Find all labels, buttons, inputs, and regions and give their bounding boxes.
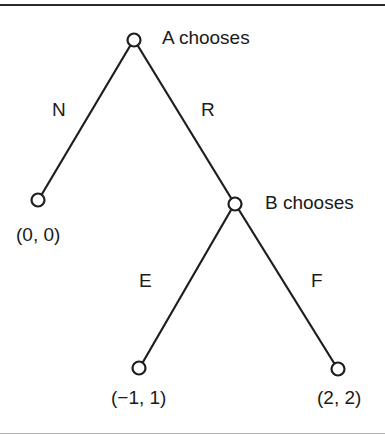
edge-e xyxy=(143,210,231,362)
leaf-node-e xyxy=(133,362,146,375)
edge-label-r: R xyxy=(201,100,215,119)
leaf-node-f xyxy=(332,363,345,376)
bottom-border-rule xyxy=(0,433,385,434)
edge-r xyxy=(138,46,231,198)
payoff-label-e: (−1, 1) xyxy=(111,388,166,407)
decision-node-b xyxy=(229,198,242,211)
payoff-label-f: (2, 2) xyxy=(317,388,361,407)
edge-label-e: E xyxy=(139,271,152,290)
game-tree-figure: A chooses N R (0, 0) B chooses E F (−1, … xyxy=(0,0,385,436)
root-node-a xyxy=(128,34,141,47)
label-a-chooses: A chooses xyxy=(162,28,250,47)
label-b-chooses: B chooses xyxy=(265,193,354,212)
game-tree-graphic xyxy=(0,0,385,436)
payoff-label-n: (0, 0) xyxy=(16,225,60,244)
edge-label-n: N xyxy=(52,100,66,119)
edge-n xyxy=(42,46,130,194)
leaf-node-n xyxy=(32,194,45,207)
edge-label-f: F xyxy=(311,271,323,290)
